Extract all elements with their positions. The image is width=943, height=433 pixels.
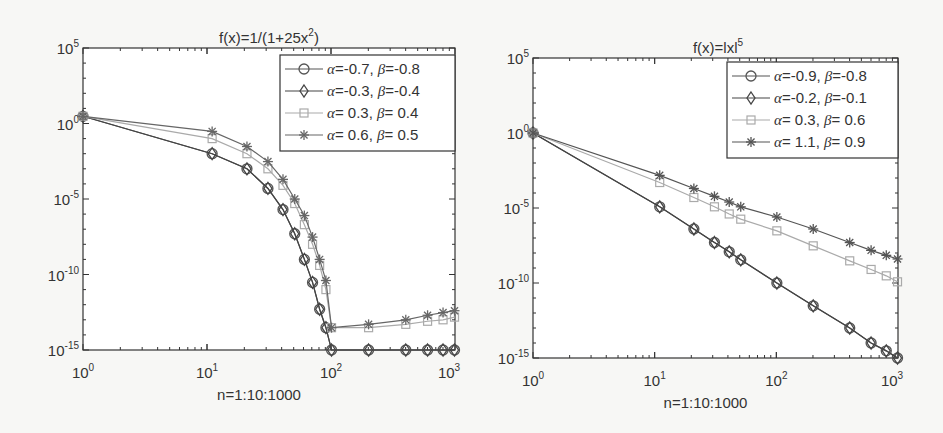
asterisk-marker-icon xyxy=(724,197,734,207)
legend: α=-0.9, β=-0.8α=-0.2, β=-0.1α= 0.3, β= 0… xyxy=(727,62,898,158)
asterisk-marker-icon xyxy=(423,310,433,320)
asterisk-marker-icon xyxy=(207,126,217,136)
asterisk-marker-icon xyxy=(401,315,411,325)
legend-label: α=-0.2, β=-0.1 xyxy=(774,89,867,106)
x-tick-label: 103 xyxy=(881,370,904,389)
asterisk-marker-icon xyxy=(845,238,855,248)
x-tick-label: 103 xyxy=(438,362,461,381)
y-tick-label: 10-10 xyxy=(498,273,530,292)
x-tick-label: 100 xyxy=(72,362,95,381)
asterisk-marker-icon xyxy=(881,250,891,260)
asterisk-marker-icon xyxy=(364,319,374,329)
figure-canvas: 10010110210310510010-510-1010-15f(x)=1/(… xyxy=(0,0,943,433)
y-tick-label: 10-5 xyxy=(53,189,79,208)
y-tick-label: 100 xyxy=(507,123,530,142)
y-tick-label: 10-15 xyxy=(48,340,80,359)
asterisk-marker-icon xyxy=(278,174,288,184)
asterisk-marker-icon xyxy=(689,183,699,193)
asterisk-marker-icon xyxy=(772,212,782,222)
legend-label: α=-0.9, β=-0.8 xyxy=(774,67,867,84)
legend-label: α=-0.7, β=-0.8 xyxy=(327,60,420,77)
legend-label: α=-0.3, β=-0.4 xyxy=(327,82,420,99)
asterisk-marker-icon xyxy=(438,308,448,318)
asterisk-marker-icon xyxy=(315,254,325,264)
asterisk-marker-icon xyxy=(528,128,538,138)
asterisk-marker-icon xyxy=(299,211,309,221)
asterisk-marker-icon xyxy=(263,157,273,167)
x-tick-label: 102 xyxy=(765,370,788,389)
legend: α=-0.7, β=-0.8α=-0.3, β=-0.4α= 0.3, β= 0… xyxy=(280,55,455,151)
legend-label: α= 0.6, β= 0.5 xyxy=(327,126,418,143)
legend-label: α= 0.3, β= 0.6 xyxy=(774,111,865,128)
y-tick-label: 100 xyxy=(57,114,80,133)
asterisk-legend-icon xyxy=(299,130,309,140)
asterisk-marker-icon xyxy=(290,194,300,204)
asterisk-marker-icon xyxy=(78,111,88,121)
asterisk-marker-icon xyxy=(242,141,252,151)
asterisk-marker-icon xyxy=(321,276,331,286)
asterisk-marker-icon xyxy=(736,202,746,212)
x-tick-label: 102 xyxy=(320,362,343,381)
legend-label: α= 0.3, β= 0.4 xyxy=(327,104,418,121)
y-tick-label: 10-5 xyxy=(503,198,529,217)
x-tick-label: 100 xyxy=(522,370,545,389)
y-tick-label: 105 xyxy=(507,48,530,67)
x-axis-label: n=1:10:1000 xyxy=(664,394,748,411)
asterisk-marker-icon xyxy=(327,323,337,333)
plot-runge-function: 10010110210310510010-510-1010-15f(x)=1/(… xyxy=(48,27,461,403)
asterisk-marker-icon xyxy=(866,245,876,255)
y-tick-label: 105 xyxy=(57,38,80,57)
asterisk-legend-icon xyxy=(746,137,756,147)
plot-abs-x5-function: 10010110210310510010-510-1010-15f(x)=lxl… xyxy=(498,37,904,411)
asterisk-marker-icon xyxy=(655,170,665,180)
y-tick-label: 10-10 xyxy=(48,265,80,284)
plot-title: f(x)=lxl5 xyxy=(693,37,744,56)
asterisk-marker-icon xyxy=(893,254,903,264)
x-tick-label: 101 xyxy=(644,370,667,389)
asterisk-marker-icon xyxy=(308,232,318,242)
plot-title: f(x)=1/(1+25x2) xyxy=(219,27,319,46)
x-tick-label: 101 xyxy=(196,362,219,381)
asterisk-marker-icon xyxy=(709,191,719,201)
legend-label: α= 1.1, β= 0.9 xyxy=(774,133,865,150)
y-tick-label: 10-15 xyxy=(498,348,530,367)
asterisk-marker-icon xyxy=(450,306,460,316)
asterisk-marker-icon xyxy=(808,224,818,234)
x-axis-label: n=1:10:1000 xyxy=(217,386,301,403)
